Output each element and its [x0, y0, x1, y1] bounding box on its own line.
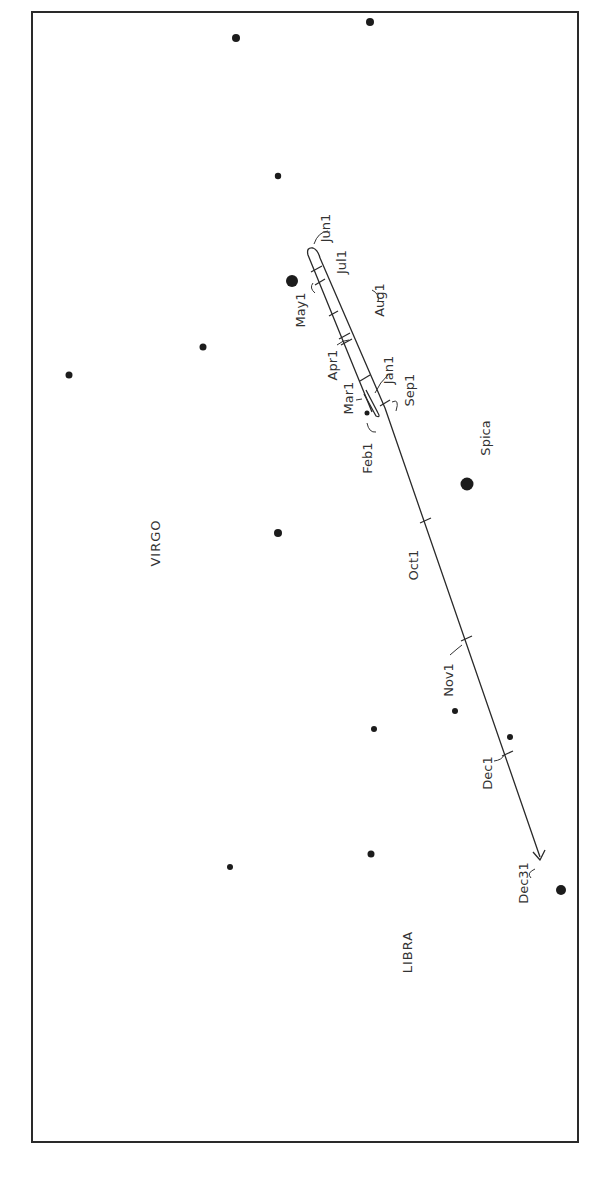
date-label-may1: May1	[293, 292, 308, 327]
chart-frame	[32, 12, 578, 1142]
date-label-sep1: Sep1	[402, 374, 417, 407]
label-leaders	[311, 231, 535, 878]
star-7	[274, 529, 282, 537]
date-label-jan1: Jan1	[381, 356, 396, 385]
labels-layer: VIRGOLIBRASpicaJan1Feb1Mar1Apr1May1Jun1J…	[148, 214, 531, 974]
date-label-feb1: Feb1	[360, 442, 375, 473]
star-10	[507, 734, 513, 740]
date-label-dec31: Dec31	[516, 862, 531, 904]
star-1	[232, 34, 240, 42]
date-label-aug1: Aug1	[372, 283, 387, 317]
star-11	[227, 864, 233, 870]
planet-path	[308, 248, 545, 860]
star-3	[286, 275, 298, 287]
constellation-label-virgo: VIRGO	[148, 519, 163, 566]
star-12	[368, 851, 375, 858]
constellation-label-libra: LIBRA	[400, 931, 415, 973]
date-label-jun1: Jun1	[318, 214, 333, 244]
date-label-dec1: Dec1	[480, 756, 495, 789]
star-0	[366, 18, 374, 26]
star-label-spica: Spica	[478, 420, 493, 455]
star-spica	[461, 478, 474, 491]
star-9	[371, 726, 377, 732]
star-8	[452, 708, 458, 714]
date-label-nov1: Nov1	[441, 663, 456, 697]
star-5	[66, 372, 73, 379]
date-label-mar1: Mar1	[341, 382, 356, 415]
month-ticks	[311, 266, 513, 756]
path-leg-jun-to-dec	[320, 258, 540, 857]
star-13	[556, 885, 566, 895]
date-label-apr1: Apr1	[325, 350, 340, 381]
star-chart: VIRGOLIBRASpicaJan1Feb1Mar1Apr1May1Jun1J…	[0, 0, 590, 1177]
star-6	[365, 411, 370, 416]
star-4	[200, 344, 207, 351]
star-2	[275, 173, 281, 179]
date-label-oct1: Oct1	[406, 550, 421, 581]
date-label-jul1: Jul1	[334, 250, 349, 275]
